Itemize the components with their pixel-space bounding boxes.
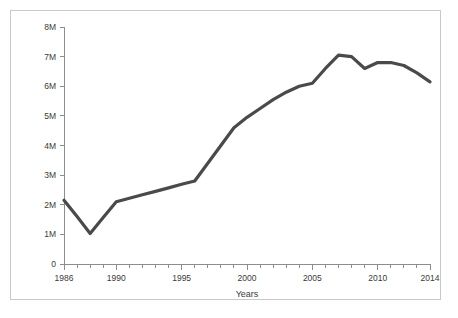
x-tick-label: 1990 xyxy=(107,273,126,283)
x-axis-title: Years xyxy=(236,289,259,299)
x-tick-label: 1995 xyxy=(172,273,191,283)
y-tick-label: 5M xyxy=(44,111,56,121)
y-tick-label: 6M xyxy=(44,81,56,91)
y-tick-label: 8M xyxy=(44,22,56,32)
x-tick-label: 1986 xyxy=(55,273,74,283)
y-tick-label: 0 xyxy=(51,259,56,269)
y-tick-label: 3M xyxy=(44,170,56,180)
x-tick-label: 2010 xyxy=(368,273,387,283)
y-tick-label: 4M xyxy=(44,141,56,151)
x-tick-label: 2005 xyxy=(303,273,322,283)
y-tick-label: 2M xyxy=(44,200,56,210)
x-tick-label: 2000 xyxy=(238,273,257,283)
chart-frame: 01M2M3M4M5M6M7M8M19861990199520002005201… xyxy=(10,10,441,300)
x-tick-label: 2014 xyxy=(421,273,440,283)
y-tick-label: 7M xyxy=(44,52,56,62)
y-tick-label: 1M xyxy=(44,229,56,239)
data-series-line xyxy=(64,55,430,233)
line-chart-plot: 01M2M3M4M5M6M7M8M19861990199520002005201… xyxy=(11,11,440,299)
figure-root: 01M2M3M4M5M6M7M8M19861990199520002005201… xyxy=(0,0,458,318)
